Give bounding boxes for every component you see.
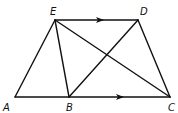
segment-EB	[55, 20, 69, 97]
label-C: C	[168, 102, 175, 113]
segment-AE	[15, 20, 55, 97]
parallel-arrows-group	[96, 17, 124, 100]
label-B: B	[66, 102, 73, 113]
label-D: D	[140, 6, 148, 17]
geometry-diagram: A B C D E	[0, 0, 178, 113]
label-E: E	[50, 6, 57, 17]
segment-BD	[69, 20, 138, 97]
segments-group	[15, 20, 170, 97]
label-A: A	[2, 102, 10, 113]
segment-EC	[55, 20, 170, 97]
